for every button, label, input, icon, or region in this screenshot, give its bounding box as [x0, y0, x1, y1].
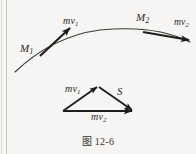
label-mass-end-subscript: 2	[145, 16, 149, 25]
label-triangle-momentum-final-base: mv	[91, 111, 103, 122]
label-mass-end-base: M	[136, 11, 145, 23]
label-momentum-initial: mv1	[63, 16, 78, 28]
physics-figure: M1 mv1 M2 mv2 mv1 S mv2 图 12-6	[0, 0, 196, 154]
label-mass-end: M2	[136, 12, 149, 25]
label-triangle-impulse-base: S	[117, 85, 123, 97]
triangle-vector-impulse	[99, 87, 132, 110]
momentum-vector-initial-arrow	[40, 28, 70, 56]
label-momentum-final: mv2	[174, 18, 189, 28]
label-triangle-impulse: S	[117, 86, 123, 99]
label-mass-start: M1	[20, 43, 33, 56]
label-triangle-momentum-initial-base: mv	[65, 83, 77, 94]
label-triangle-momentum-initial-subscript: 1	[77, 88, 80, 95]
figure-caption: 图 12-6	[0, 133, 196, 148]
label-triangle-momentum-final: mv2	[91, 112, 106, 124]
label-momentum-initial-subscript: 1	[75, 20, 78, 27]
label-triangle-momentum-initial: mv1	[65, 84, 80, 96]
label-mass-start-subscript: 1	[29, 47, 33, 56]
label-momentum-final-base: mv	[174, 17, 185, 27]
label-mass-start-base: M	[20, 42, 29, 54]
label-momentum-initial-base: mv	[63, 15, 75, 26]
figure-vector-canvas	[0, 0, 196, 154]
label-momentum-final-subscript: 2	[185, 21, 188, 28]
label-triangle-momentum-final-subscript: 2	[103, 116, 106, 123]
